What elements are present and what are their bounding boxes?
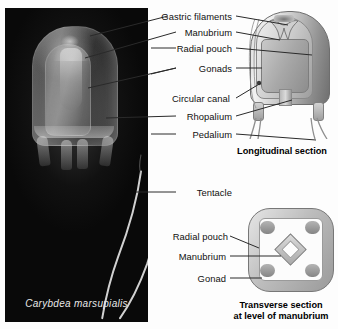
leader-lines: [0, 0, 338, 329]
label-gonad-transverse: Gonad: [198, 273, 226, 284]
label-gonads: Gonads: [199, 63, 232, 74]
caption-longitudinal-section: Longitudinal section: [228, 146, 336, 157]
caption-transverse-section: Transverse section at level of manubrium: [224, 300, 338, 322]
label-gastric-filaments: Gastric filaments: [161, 11, 232, 22]
caption-transverse-line2: at level of manubrium: [224, 311, 338, 322]
caption-transverse-line1: Transverse section: [224, 300, 338, 311]
label-pedalium: Pedalium: [193, 129, 232, 140]
label-tentacle: Tentacle: [197, 187, 232, 198]
label-radial-pouch: Radial pouch: [177, 43, 232, 54]
label-rhopalium: Rhopalium: [187, 111, 232, 122]
jellyfish-anatomy-figure: Carybdea marsupialis: [0, 0, 338, 329]
label-radial-pouch-transverse: Radial pouch: [173, 231, 228, 242]
label-manubrium-transverse: Manubrium: [179, 251, 226, 262]
label-circular-canal: Circular canal: [172, 93, 230, 104]
label-manubrium: Manubrium: [185, 27, 232, 38]
